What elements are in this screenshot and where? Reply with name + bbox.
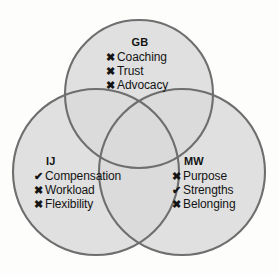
item-label: Compensation [45, 169, 121, 183]
check-icon: ✔ [172, 183, 183, 197]
venn-group-ij: IJ ✔ Compensation ✖ Workload ✖ Flexibili… [34, 155, 144, 211]
group-mw-title: MW [172, 155, 276, 168]
cross-icon: ✖ [172, 197, 183, 211]
cross-icon: ✖ [34, 183, 45, 197]
group-gb-item-list: ✖ Coaching ✖ Trust ✖ Advocacy [94, 50, 186, 92]
list-item: ✖ Coaching [106, 50, 186, 64]
item-label: Purpose [183, 169, 227, 183]
list-item: ✖ Purpose [172, 169, 276, 183]
group-ij-title: IJ [34, 155, 144, 168]
item-label: Workload [45, 183, 95, 197]
group-gb-title: GB [94, 36, 186, 49]
item-label: Flexibility [45, 197, 93, 211]
list-item: ✖ Trust [106, 64, 186, 78]
item-label: Trust [117, 64, 143, 78]
venn-group-mw: MW ✖ Purpose ✔ Strengths ✖ Belonging [172, 155, 276, 211]
item-label: Advocacy [117, 78, 168, 92]
cross-icon: ✖ [34, 197, 45, 211]
cross-icon: ✖ [172, 169, 183, 183]
cross-icon: ✖ [106, 50, 117, 64]
list-item: ✖ Advocacy [106, 78, 186, 92]
list-item: ✖ Belonging [172, 197, 276, 211]
group-ij-item-list: ✔ Compensation ✖ Workload ✖ Flexibility [34, 169, 144, 211]
list-item: ✖ Workload [34, 183, 144, 197]
list-item: ✔ Strengths [172, 183, 276, 197]
cross-icon: ✖ [106, 78, 117, 92]
list-item: ✖ Flexibility [34, 197, 144, 211]
item-label: Strengths [183, 183, 233, 197]
item-label: Coaching [117, 50, 167, 64]
item-label: Belonging [183, 197, 235, 211]
venn-group-gb: GB ✖ Coaching ✖ Trust ✖ Advocacy [94, 36, 186, 92]
cross-icon: ✖ [106, 64, 117, 78]
list-item: ✔ Compensation [34, 169, 144, 183]
venn-diagram: GB ✖ Coaching ✖ Trust ✖ Advocacy IJ ✔ Co… [0, 0, 279, 275]
check-icon: ✔ [34, 169, 45, 183]
group-mw-item-list: ✖ Purpose ✔ Strengths ✖ Belonging [172, 169, 276, 211]
